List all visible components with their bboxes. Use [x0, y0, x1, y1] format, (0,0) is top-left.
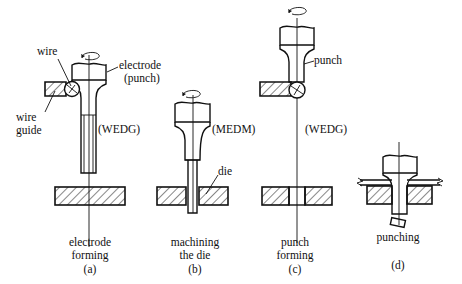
- caption-c-line1: punch: [270, 236, 320, 249]
- electrode-tip: [188, 160, 197, 213]
- rotation-arrow-icon: [182, 90, 200, 97]
- die-right: [407, 186, 432, 204]
- rotation-arrow-icon: [81, 52, 99, 59]
- label-punch-paren: (punch): [124, 72, 160, 85]
- caption-a-line2: forming: [60, 249, 120, 262]
- caption-a-letter: (a): [60, 263, 120, 276]
- electrode-body: [175, 122, 210, 160]
- die-right: [199, 187, 228, 205]
- sheet-plate-left: [360, 180, 392, 185]
- wire-guide: [45, 82, 66, 96]
- workpiece-c-right: [305, 187, 332, 205]
- caption-c-letter: (c): [270, 263, 320, 276]
- wire-guide: [260, 82, 291, 96]
- caption-b-line1: machining: [160, 236, 230, 249]
- caption-b-line2: the die: [160, 249, 230, 262]
- caption-a-line1: electrode: [60, 236, 120, 249]
- method-label-c: (WEDG): [305, 123, 347, 136]
- panel-d-punching: [357, 142, 443, 227]
- label-wire: wire: [37, 45, 57, 58]
- punch-head: [383, 155, 417, 173]
- label-wire-guide-2: guide: [16, 124, 42, 137]
- panel-a-electrode-forming: [45, 52, 125, 247]
- caption-d-letter: (d): [370, 259, 426, 272]
- label-punch: punch: [314, 54, 342, 67]
- label-die: die: [218, 165, 232, 178]
- method-label-a: (WEDG): [98, 123, 140, 136]
- caption-c-line2: forming: [270, 249, 320, 262]
- punched-slug: [390, 218, 405, 228]
- label-electrode: electrode: [119, 59, 161, 72]
- sheet-plate-right: [407, 180, 440, 185]
- panel-b-machining-die: [157, 90, 228, 213]
- die-left: [157, 187, 186, 205]
- caption-d-line1: punching: [370, 231, 426, 244]
- workpiece-a: [55, 187, 125, 205]
- label-wire-guide-1: wire: [16, 111, 36, 124]
- die-left: [367, 186, 392, 204]
- wire-circle: [65, 82, 80, 97]
- caption-b-letter: (b): [160, 263, 230, 276]
- workpiece-c-left: [262, 187, 289, 205]
- method-label-b: (MEDM): [212, 123, 255, 136]
- rotation-arrow-icon: [288, 7, 306, 14]
- electrode-head: [175, 102, 210, 122]
- wire-circle: [289, 82, 305, 98]
